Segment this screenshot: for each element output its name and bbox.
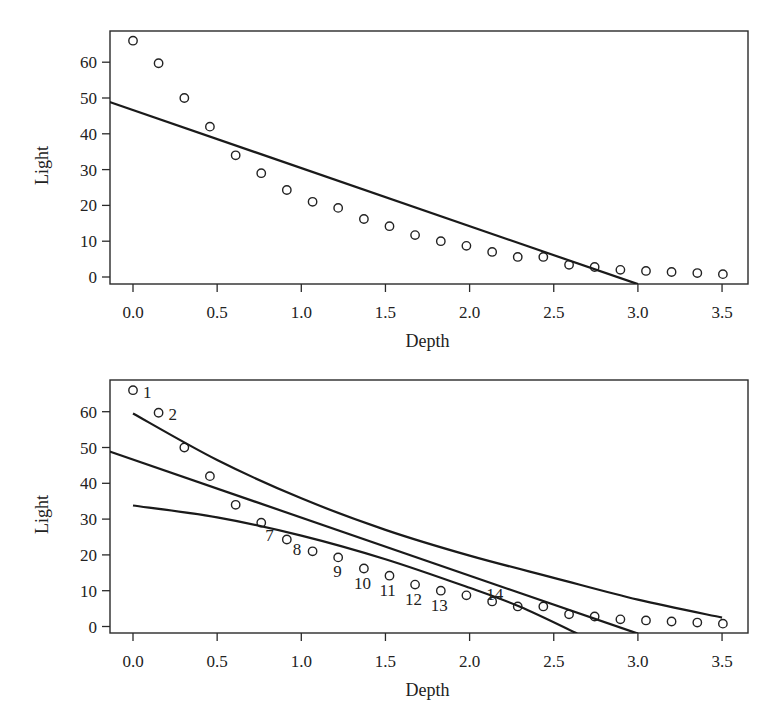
data-point [488, 248, 496, 256]
data-point [539, 253, 547, 261]
fit-line [109, 102, 637, 284]
data-point [514, 253, 522, 261]
data-point [206, 472, 214, 480]
x-tick-label: 2.0 [459, 652, 480, 671]
data-point [462, 591, 470, 599]
y-tick-label: 30 [80, 510, 97, 529]
x-axis-title: Depth [406, 680, 450, 700]
point-label: 1 [143, 383, 152, 402]
data-point [283, 535, 291, 543]
data-point [616, 615, 624, 623]
figure: 0.00.51.01.52.02.53.03.50102030405060Dep… [0, 0, 780, 724]
point-label: 8 [293, 540, 302, 559]
y-tick-label: 20 [80, 196, 97, 215]
x-tick-label: 0.0 [122, 652, 143, 671]
x-tick-label: 1.0 [291, 652, 312, 671]
x-tick-label: 3.0 [627, 652, 648, 671]
x-tick-label: 2.5 [543, 303, 564, 322]
x-tick-label: 3.0 [627, 303, 648, 322]
y-axis-title: Light [32, 495, 52, 534]
data-point [334, 204, 342, 212]
point-label: 12 [405, 590, 422, 609]
data-point [693, 269, 701, 277]
data-point [360, 215, 368, 223]
y-tick-label: 40 [80, 125, 97, 144]
data-point [360, 564, 368, 572]
chart-canvas: 0.00.51.01.52.02.53.03.50102030405060Dep… [0, 0, 780, 724]
data-point [411, 580, 419, 588]
x-tick-label: 0.5 [207, 303, 228, 322]
x-tick-label: 3.5 [711, 303, 732, 322]
y-tick-label: 10 [80, 582, 97, 601]
data-point [154, 409, 162, 417]
data-point [693, 618, 701, 626]
data-point [308, 198, 316, 206]
x-tick-label: 0.0 [122, 303, 143, 322]
plot-frame [110, 31, 748, 284]
data-point [385, 571, 393, 579]
x-tick-label: 1.5 [375, 652, 396, 671]
data-point [257, 169, 265, 177]
y-tick-label: 50 [80, 89, 97, 108]
x-tick-label: 0.5 [207, 652, 228, 671]
data-point [667, 268, 675, 276]
data-point [719, 270, 727, 278]
data-point [180, 94, 188, 102]
y-tick-label: 20 [80, 546, 97, 565]
y-tick-label: 0 [89, 268, 98, 287]
data-point [334, 553, 342, 561]
data-point [411, 231, 419, 239]
plot-frame [110, 380, 748, 633]
fit-line [109, 451, 637, 633]
point-label: 14 [486, 585, 504, 604]
y-tick-label: 60 [80, 403, 97, 422]
bottom-panel: 0.00.51.01.52.02.53.03.50102030405060Dep… [32, 380, 748, 700]
x-axis-title: Depth [406, 331, 450, 351]
data-point [462, 242, 470, 250]
y-tick-label: 30 [80, 161, 97, 180]
y-tick-label: 50 [80, 439, 97, 458]
data-point [437, 587, 445, 595]
point-label: 11 [379, 581, 395, 600]
point-label: 7 [265, 526, 274, 545]
x-tick-label: 1.0 [291, 303, 312, 322]
data-point [437, 237, 445, 245]
data-point [308, 547, 316, 555]
point-label: 13 [431, 596, 448, 615]
data-point [719, 619, 727, 627]
x-tick-label: 3.5 [711, 652, 732, 671]
y-tick-label: 40 [80, 474, 97, 493]
top-panel: 0.00.51.01.52.02.53.03.50102030405060Dep… [32, 31, 748, 351]
x-tick-label: 2.0 [459, 303, 480, 322]
x-tick-label: 2.5 [543, 652, 564, 671]
data-point [154, 59, 162, 67]
upper-band-curve [133, 413, 722, 617]
data-point [642, 616, 650, 624]
y-tick-label: 10 [80, 232, 97, 251]
data-point [385, 222, 393, 230]
data-point [231, 501, 239, 509]
data-point [616, 266, 624, 274]
data-point [206, 122, 214, 130]
y-tick-label: 0 [89, 618, 98, 637]
y-axis-title: Light [32, 146, 52, 185]
data-point [129, 37, 137, 45]
point-label: 10 [354, 574, 371, 593]
point-label: 9 [333, 562, 342, 581]
data-point [667, 617, 675, 625]
data-point [283, 186, 291, 194]
lower-band-curve [133, 505, 577, 633]
data-point [129, 386, 137, 394]
data-point [231, 151, 239, 159]
data-point [539, 602, 547, 610]
y-tick-label: 60 [80, 53, 97, 72]
x-tick-label: 1.5 [375, 303, 396, 322]
point-label: 2 [169, 405, 178, 424]
data-point [642, 267, 650, 275]
